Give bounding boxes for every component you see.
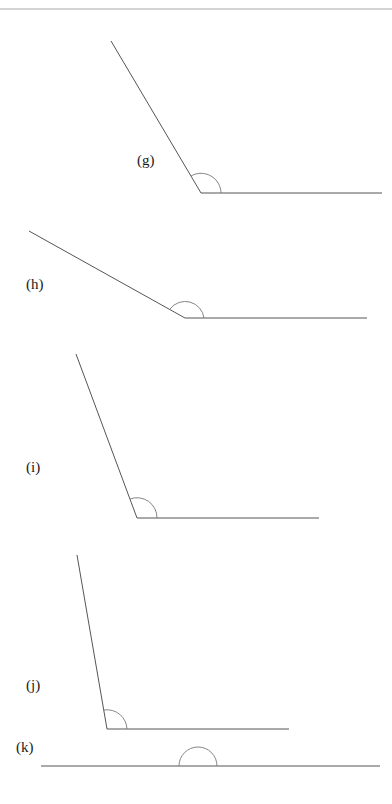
angle-label-k: (k) [16, 739, 34, 756]
angle-i: (i) [26, 354, 319, 518]
angle-diagram: (g) (h) (i) (j) (k) [0, 0, 392, 804]
angle-arc-i [130, 498, 157, 518]
angle-label-g: (g) [137, 152, 155, 169]
ray-i-1 [76, 354, 137, 518]
angle-label-j: (j) [26, 677, 40, 694]
angle-arc-k [179, 747, 217, 766]
angle-h: (h) [26, 231, 367, 318]
ray-h-1 [29, 231, 185, 318]
angle-j: (j) [26, 555, 289, 729]
angle-label-h: (h) [26, 276, 44, 293]
ray-j-1 [77, 555, 107, 729]
angle-g: (g) [111, 41, 382, 193]
angle-label-i: (i) [26, 459, 40, 476]
angle-k: (k) [16, 739, 380, 766]
angle-arc-h [170, 301, 204, 318]
ray-g-1 [111, 41, 201, 193]
angle-arc-j [104, 710, 127, 729]
